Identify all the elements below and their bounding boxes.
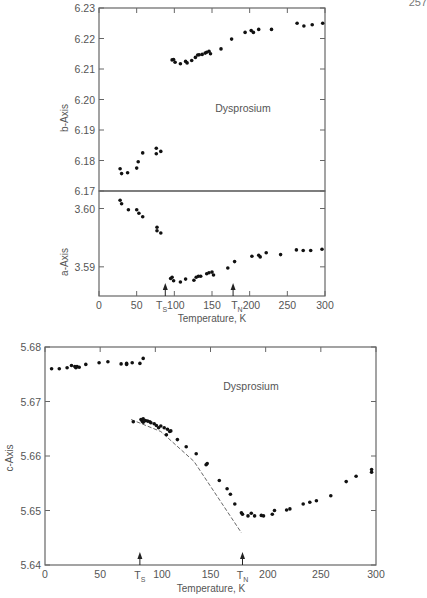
data-point: [159, 150, 163, 154]
data-point: [262, 514, 266, 518]
data-point: [246, 514, 250, 518]
y-tick-label: 5.67: [21, 396, 42, 408]
arrow-up-icon: [163, 283, 168, 290]
y-axis-title: a-Axis: [59, 248, 70, 276]
plot-frame: [99, 8, 325, 191]
data-point: [132, 420, 136, 424]
data-point: [233, 260, 237, 264]
data-point: [155, 225, 159, 229]
data-point: [258, 255, 262, 259]
data-point: [77, 365, 81, 369]
y-tick-label: 6.21: [75, 63, 96, 75]
data-point: [135, 166, 139, 170]
data-point: [229, 492, 233, 496]
data-point: [179, 62, 183, 66]
data-point: [308, 501, 312, 505]
data-point: [295, 248, 299, 252]
data-point: [219, 47, 223, 51]
data-point: [58, 367, 62, 371]
data-point: [120, 172, 124, 176]
data-point: [252, 31, 256, 35]
data-point: [288, 507, 292, 511]
data-point: [162, 426, 166, 430]
y-axis-title: b-Axis: [59, 104, 70, 132]
x-tick-label: 250: [279, 299, 297, 311]
x-axis-title: Temperature, K: [177, 583, 246, 594]
data-point: [212, 273, 216, 277]
data-point: [370, 468, 374, 472]
x-tick-label: 0: [96, 299, 102, 311]
data-point: [295, 22, 299, 26]
data-point: [184, 445, 188, 449]
data-point: [310, 23, 314, 27]
data-point: [271, 513, 275, 517]
data-point: [354, 474, 358, 478]
annotation-dysprosium: Dysprosium: [215, 102, 271, 114]
arrow-up-icon: [240, 552, 245, 559]
data-point: [190, 59, 194, 63]
data-point: [159, 424, 163, 428]
x-tick-label: 300: [367, 568, 385, 580]
data-point: [135, 208, 139, 212]
x-axis-title: Temperature, K: [178, 313, 247, 324]
x-tick-label: 300: [316, 299, 334, 311]
data-point: [130, 361, 134, 365]
data-point: [137, 211, 141, 215]
data-point: [302, 24, 306, 28]
x-tick-label: 200: [259, 568, 277, 580]
data-point: [285, 508, 289, 512]
x-tick-label: 50: [94, 568, 106, 580]
y-tick-label: 3.59: [75, 261, 96, 273]
data-point: [250, 254, 254, 258]
data-point: [218, 479, 222, 483]
data-point: [257, 28, 261, 32]
data-point: [118, 199, 122, 203]
data-point: [155, 152, 159, 156]
data-point: [185, 61, 189, 65]
plot-frame: [45, 347, 376, 565]
data-point: [120, 202, 124, 206]
y-tick-label: 6.18: [75, 155, 96, 167]
data-point: [141, 357, 145, 361]
data-point: [136, 160, 140, 164]
data-point: [315, 499, 319, 503]
data-point: [172, 279, 176, 283]
marker-tick-label: TN: [237, 569, 248, 583]
data-point: [250, 511, 254, 515]
data-point: [199, 274, 203, 278]
figure: 6.176.186.196.206.216.226.23Dysprosiumb-…: [0, 0, 427, 598]
y-tick-label: 6.20: [75, 94, 96, 106]
data-point: [149, 421, 153, 425]
data-point: [170, 276, 174, 280]
data-point: [226, 266, 230, 270]
data-point: [70, 364, 74, 368]
data-point: [119, 362, 123, 366]
marker-tick-label: TS100: [156, 299, 185, 313]
y-tick-label: 6.22: [75, 33, 96, 45]
fit-line: [131, 420, 241, 533]
data-point: [253, 514, 257, 518]
data-point: [127, 208, 131, 212]
x-tick-label: 150: [203, 299, 221, 311]
data-point: [173, 61, 177, 65]
data-point: [225, 487, 229, 491]
data-point: [320, 248, 324, 252]
y-tick-label: 5.68: [21, 341, 42, 353]
data-point: [179, 280, 183, 284]
y-tick-label: 6.17: [75, 185, 96, 197]
marker-tick-label: TN200: [231, 299, 260, 313]
data-point: [264, 251, 268, 255]
data-point: [241, 513, 245, 517]
data-point: [155, 229, 159, 233]
data-point: [301, 249, 305, 253]
arrow-up-icon: [137, 552, 142, 559]
x-tick-label: 0: [42, 568, 48, 580]
y-tick-label: 6.19: [75, 124, 96, 136]
x-tick-label: 100: [153, 568, 171, 580]
data-point: [141, 215, 145, 219]
data-point: [301, 502, 305, 506]
plot-frame: [99, 191, 325, 296]
data-point: [194, 452, 198, 456]
data-point: [126, 171, 130, 175]
data-point: [176, 438, 180, 442]
